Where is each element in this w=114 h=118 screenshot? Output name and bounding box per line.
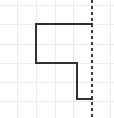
grid-lines-vertical [17, 0, 110, 118]
grid-figure-svg [0, 0, 114, 118]
figure-canvas [0, 0, 114, 118]
step-polyline-shape [36, 24, 92, 99]
